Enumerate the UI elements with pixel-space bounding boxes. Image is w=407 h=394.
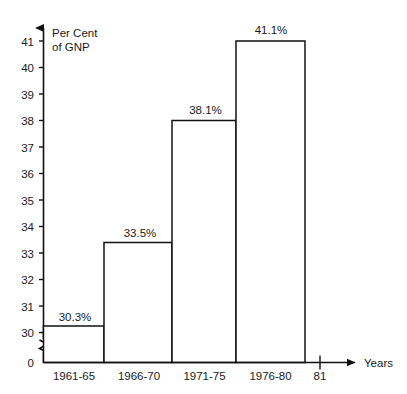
x-tick-label-81: 81 [314,370,327,382]
y-axis-title-line-2: of GNP [52,41,90,53]
y-tick-label-34: 34 [21,221,34,233]
bar-label-1966-70: 33.5% [124,227,157,239]
x-tick-label-1971-75: 1971-75 [183,370,225,382]
y-tick-label-0: 0 [28,357,34,369]
y-axis-title-line-1: Per Cent [52,27,98,39]
y-tick-label-41: 41 [21,36,34,48]
x-tick-label-1961-65: 1961-65 [53,370,95,382]
x-axis-title: Years [364,357,393,369]
y-tick-label-31: 31 [21,301,34,313]
y-tick-label-39: 39 [21,89,34,101]
y-tick-label-40: 40 [21,62,34,74]
x-tick-label-1966-70: 1966-70 [118,370,160,382]
y-tick-label-35: 35 [21,195,34,207]
y-tick-label-37: 37 [21,142,34,154]
y-tick-label-36: 36 [21,168,34,180]
chart-canvas: 41 40 39 38 37 36 35 34 33 32 31 30 0 Pe… [0,0,407,394]
bar-label-1976-80: 41.1% [255,24,288,36]
bar-1971-75[interactable] [172,121,236,363]
bar-chart-figure: 41 40 39 38 37 36 35 34 33 32 31 30 0 Pe… [0,0,407,394]
y-tick-label-33: 33 [21,248,34,260]
x-tick-labels: 1961-65 1966-70 1971-75 1976-80 81 [53,370,327,382]
bar-1966-70[interactable] [104,243,172,363]
bar-label-1961-65: 30.3% [59,311,92,323]
x-tick-label-1976-80: 1976-80 [249,370,291,382]
y-tick-label-38: 38 [21,115,34,127]
bar-label-1971-75: 38.1% [189,104,222,116]
y-tick-label-32: 32 [21,274,34,286]
bar-1961-65[interactable] [44,326,105,363]
y-tick-label-30: 30 [21,327,34,339]
bar-1976-80[interactable] [236,41,305,363]
